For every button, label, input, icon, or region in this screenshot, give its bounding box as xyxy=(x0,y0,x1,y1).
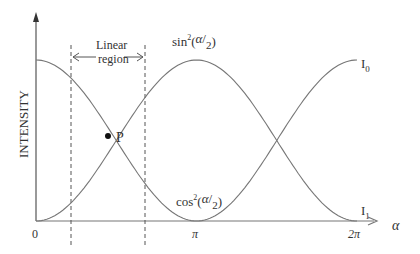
svg-text:cos2(α/2): cos2(α/2) xyxy=(176,191,222,211)
point-p-label: P xyxy=(116,130,124,145)
sin-squared-label: sin2(α/2) xyxy=(172,31,216,51)
tick-label-two-pi: 2π xyxy=(348,227,361,241)
linear-region-label-line2: region xyxy=(98,52,129,66)
x-axis-label: α xyxy=(392,218,400,233)
tick-label-zero: 0 xyxy=(32,227,38,241)
y-axis-label: INTENSITY xyxy=(16,90,31,158)
linear-region-label-line1: Linear xyxy=(96,38,127,52)
point-p-marker xyxy=(105,133,111,139)
intensity-diagram: P INTENSITY 0 π 2π α Linear region sin2(… xyxy=(0,0,420,254)
y-axis-arrow-icon xyxy=(33,12,39,22)
cos-squared-label: cos2(α/2) xyxy=(176,191,222,211)
tick-label-pi: π xyxy=(192,227,199,241)
i1-label: I1 xyxy=(361,203,370,221)
i0-label: I0 xyxy=(361,56,370,74)
svg-text:sin2(α/2): sin2(α/2) xyxy=(172,31,216,51)
